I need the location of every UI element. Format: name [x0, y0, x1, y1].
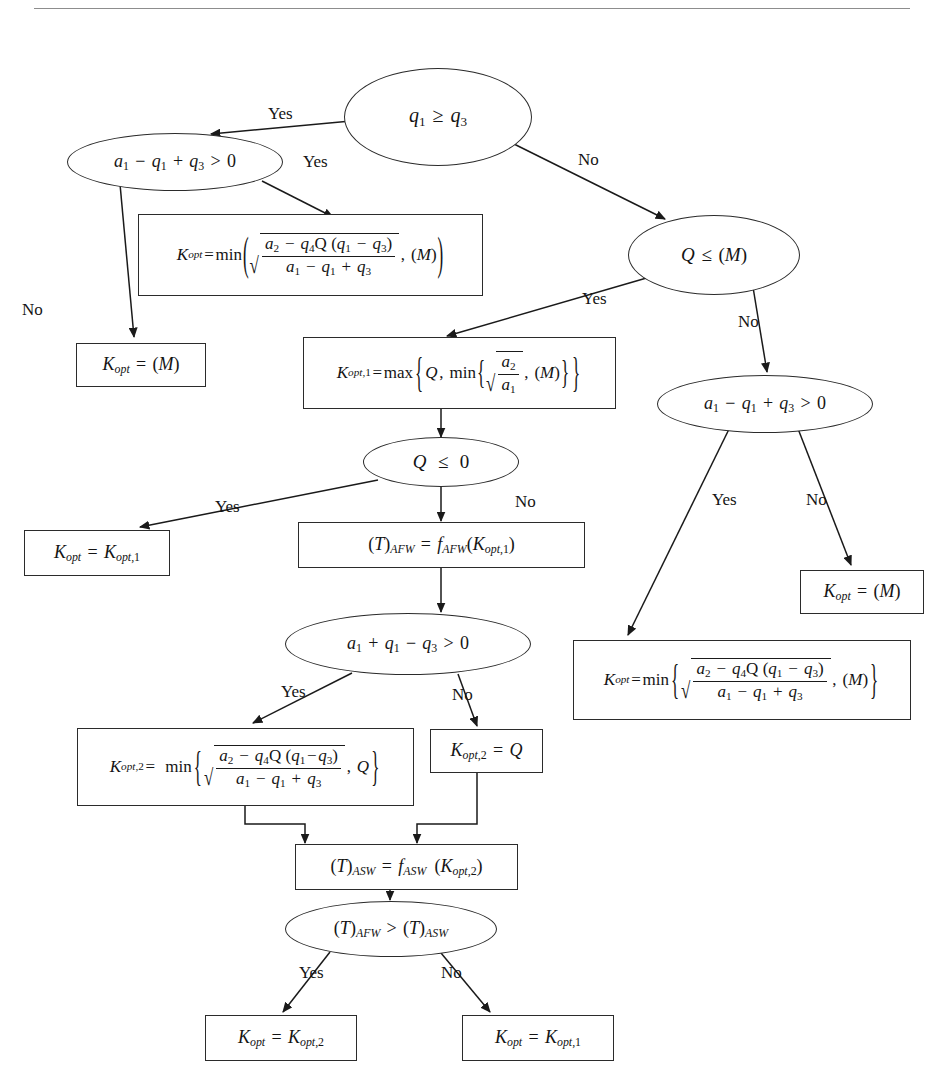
edge-label-no-n10-n11: No [806, 490, 827, 510]
edge-label-no-n5-n10: No [738, 312, 759, 332]
node-kopt2-min-text: Kopt,2 = min { √ a2 − q4Q (q1−q3) a1 − q… [110, 745, 382, 789]
node-kopt-eq-kopt1-left-text: Kopt = Kopt,1 [54, 543, 140, 564]
node-kopt2-eq-Q-text: Kopt,2 = Q [451, 741, 523, 762]
node-a1-minus-q1-plus-q3-left-text: a1 − q1 + q3 > 0 [114, 152, 236, 173]
edge-n2-n3 [262, 181, 333, 217]
edge-label-no-n13-n15: No [452, 685, 473, 705]
node-kopt-min-paren-text: Kopt = min ( √ a2 − q4Q (q1 − q3) a1 − q… [177, 233, 444, 277]
edge-n15-n16 [417, 772, 477, 843]
node-kopt-min-paren[interactable]: Kopt = min ( √ a2 − q4Q (q1 − q3) a1 − q… [138, 214, 483, 296]
edge-label-yes-n10-n12: Yes [712, 490, 737, 510]
node-T-ASW-equation[interactable]: (T)ASW = fASW (Kopt,2) [295, 844, 518, 890]
edge-label-yes-n2-n3: Yes [303, 152, 328, 172]
node-kopt-eq-kopt1-left[interactable]: Kopt = Kopt,1 [24, 530, 170, 576]
node-a1-minus-q1-plus-q3-left[interactable]: a1 − q1 + q3 > 0 [67, 133, 283, 191]
edge-label-yes-n7-n8: Yes [215, 497, 240, 517]
node-Q-le-0-text: Q ≤ 0 [413, 452, 469, 472]
node-kopt-eq-M-right-text: Kopt = (M) [824, 582, 901, 603]
node-kopt-min-brace-right[interactable]: Kopt = min { √ a2 − q4Q (q1 − q3) a1 − q… [573, 640, 911, 720]
edge-label-no-n1-n5: No [578, 150, 599, 170]
node-Q-le-M[interactable]: Q ≤ (M) [628, 215, 800, 295]
node-T-ASW-equation-text: (T)ASW = fASW (Kopt,2) [330, 857, 482, 878]
node-kopt-eq-M-left-text: Kopt = (M) [103, 355, 180, 376]
node-Q-le-M-text: Q ≤ (M) [681, 245, 747, 265]
node-T-AFW-equation-text: (T)AFW = fAFW(Kopt,1) [368, 535, 515, 556]
edge-n10-n12 [628, 421, 733, 635]
header-rule [34, 8, 910, 9]
node-q1-ge-q3[interactable]: q1 ≥ q3 [344, 68, 532, 166]
edge-n7-n8 [140, 480, 378, 527]
edge-label-yes-n13-n14: Yes [281, 682, 306, 702]
node-kopt-eq-kopt2-bottom[interactable]: Kopt = Kopt,2 [205, 1015, 357, 1061]
node-T-AFW-gt-T-ASW[interactable]: (T)AFW > (T)ASW [285, 901, 497, 957]
node-kopt1-max-text: Kopt,1 = max { Q, min { √ a2 a1 , (M) } … [337, 351, 583, 395]
node-kopt-eq-kopt1-bottom[interactable]: Kopt = Kopt,1 [462, 1015, 614, 1061]
node-kopt-min-brace-right-text: Kopt = min { √ a2 − q4Q (q1 − q3) a1 − q… [604, 658, 880, 702]
node-kopt2-min[interactable]: Kopt,2 = min { √ a2 − q4Q (q1−q3) a1 − q… [77, 728, 414, 806]
node-a1-plus-q1-minus-q3[interactable]: a1 + q1 − q3 > 0 [285, 613, 531, 675]
node-a1-plus-q1-minus-q3-text: a1 + q1 − q3 > 0 [347, 634, 469, 655]
edge-n2-n4 [120, 184, 134, 337]
diagram-page: q1 ≥ q3 a1 − q1 + q3 > 0 Kopt = min ( √ … [0, 0, 949, 1091]
node-kopt-eq-M-left[interactable]: Kopt = (M) [76, 343, 206, 387]
node-kopt-eq-kopt2-bottom-text: Kopt = Kopt,2 [238, 1028, 324, 1049]
edge-label-no-n17-n19: No [441, 963, 462, 983]
node-kopt2-eq-Q[interactable]: Kopt,2 = Q [430, 729, 543, 773]
node-a1-minus-q1-plus-q3-right[interactable]: a1 − q1 + q3 > 0 [657, 375, 873, 433]
node-q1-ge-q3-text: q1 ≥ q3 [409, 105, 467, 129]
node-a1-minus-q1-plus-q3-right-text: a1 − q1 + q3 > 0 [704, 394, 826, 415]
edge-label-no-n2-n4: No [22, 300, 43, 320]
edge-label-yes-n5-n6: Yes [582, 289, 607, 309]
node-T-AFW-equation[interactable]: (T)AFW = fAFW(Kopt,1) [298, 522, 585, 568]
node-Q-le-0[interactable]: Q ≤ 0 [363, 437, 519, 487]
node-kopt1-max[interactable]: Kopt,1 = max { Q, min { √ a2 a1 , (M) } … [303, 337, 616, 409]
edge-label-yes-n1-n2: Yes [268, 104, 293, 124]
node-T-AFW-gt-T-ASW-text: (T)AFW > (T)ASW [334, 919, 448, 940]
node-kopt-eq-kopt1-bottom-text: Kopt = Kopt,1 [495, 1028, 581, 1049]
edge-label-no-n7-n9: No [515, 492, 536, 512]
node-kopt-eq-M-right[interactable]: Kopt = (M) [800, 570, 924, 614]
edge-label-yes-n17-n18: Yes [299, 963, 324, 983]
